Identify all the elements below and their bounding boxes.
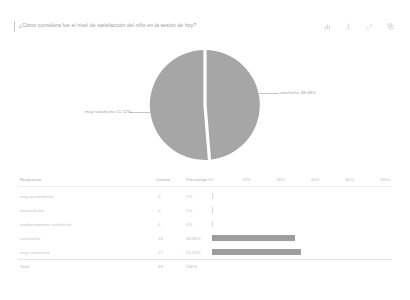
column-header-percentage: Porcentaje xyxy=(186,176,207,183)
row-percentage: 0% xyxy=(186,207,192,214)
row-bar xyxy=(212,221,213,227)
row-bar xyxy=(212,249,301,255)
axis-tick-100pct: 100% xyxy=(380,176,390,183)
pie-chart-section: muy satisfecho 51.52% satisfecho 48.48% xyxy=(0,44,410,169)
link-icon[interactable] xyxy=(366,23,373,30)
column-header-count: Conteo xyxy=(156,176,170,183)
axis-tick-20pct: 20% xyxy=(242,176,250,183)
axis-tick-60pct: 60% xyxy=(311,176,319,183)
question-header: ¿Cómo considera fue el nivel de satisfac… xyxy=(0,18,410,38)
row-percentage: 0% xyxy=(186,221,192,228)
question-accent-bar xyxy=(14,21,15,32)
row-count: 16 xyxy=(158,235,163,242)
pie-leader-line-left xyxy=(129,112,150,113)
pie-label-satisfecho: satisfecho 48.48% xyxy=(279,90,316,96)
pie-leader-line-right xyxy=(258,93,278,94)
row-percentage: 0% xyxy=(186,193,192,200)
table-row: insatisfecho00% xyxy=(0,204,410,218)
row-count: 0 xyxy=(158,207,160,214)
row-label: satisfecho xyxy=(20,235,40,242)
axis-tick-0pct: 0% xyxy=(208,176,214,183)
row-bar xyxy=(212,193,213,199)
row-bar xyxy=(212,235,295,241)
table-row: muy satisfecho1751.52% xyxy=(0,246,410,260)
axis-tick-80pct: 80% xyxy=(346,176,354,183)
table-row: medianamente satisfecho00% xyxy=(0,218,410,232)
row-percentage: 48.48% xyxy=(186,235,201,242)
row-percentage: 51.52% xyxy=(186,249,201,256)
column-header-response: Respuesta xyxy=(20,176,41,183)
total-label: Total xyxy=(20,263,30,270)
table-row: muy insatisfecho00% xyxy=(0,190,410,204)
table-row-total: Total 33 100% xyxy=(0,260,410,274)
row-count: 0 xyxy=(158,193,160,200)
survey-result-page: ¿Cómo considera fue el nivel de satisfac… xyxy=(0,0,410,300)
axis-tick-40pct: 40% xyxy=(277,176,285,183)
chart-icon[interactable] xyxy=(324,23,331,30)
copy-icon[interactable] xyxy=(387,23,394,30)
row-label: muy satisfecho xyxy=(20,249,50,256)
total-percentage: 100% xyxy=(186,263,197,270)
results-table: Respuesta Conteo Porcentaje 0%20%40%60%8… xyxy=(0,172,410,292)
download-icon[interactable] xyxy=(345,23,352,30)
table-row: satisfecho1648.48% xyxy=(0,232,410,246)
row-bar xyxy=(212,207,213,213)
total-count: 33 xyxy=(158,263,163,270)
pie-chart xyxy=(148,48,262,162)
row-count: 0 xyxy=(158,221,160,228)
table-header-divider xyxy=(18,186,392,187)
pie-label-muy-satisfecho: muy satisfecho 51.52% xyxy=(85,109,129,115)
page-title: ¿Cómo considera fue el nivel de satisfac… xyxy=(19,20,196,31)
row-label: muy insatisfecho xyxy=(20,193,54,200)
row-label: insatisfecho xyxy=(20,207,44,214)
row-label: medianamente satisfecho xyxy=(20,221,71,228)
toolbar xyxy=(324,21,394,32)
row-count: 17 xyxy=(158,249,163,256)
